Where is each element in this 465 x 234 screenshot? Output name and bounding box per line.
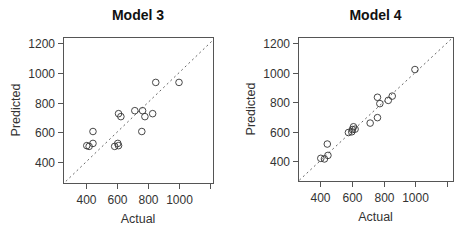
x-tick-label: 800 <box>138 193 158 207</box>
y-tick-label: 600 <box>270 126 290 140</box>
data-point <box>374 94 381 101</box>
data-point <box>367 120 374 127</box>
data-point <box>132 107 139 114</box>
data-point <box>412 66 419 73</box>
data-point <box>149 110 156 117</box>
x-tick-label: 1000 <box>402 191 429 205</box>
data-point <box>90 128 97 135</box>
data-point <box>374 114 381 121</box>
x-tick-label: 600 <box>107 193 127 207</box>
y-axis-label: Predicted <box>9 84 23 137</box>
x-tick-label: 600 <box>342 191 362 205</box>
data-point <box>324 141 331 148</box>
x-axis-label: Actual <box>121 212 156 226</box>
x-axis-label: Actual <box>358 210 393 224</box>
data-point <box>152 79 159 86</box>
chart-canvas: Model 3400600800100040060080010001200Act… <box>0 0 465 234</box>
data-point <box>142 113 149 120</box>
data-point <box>115 142 122 149</box>
y-tick-label: 600 <box>35 126 55 140</box>
x-tick-label: 800 <box>374 191 394 205</box>
data-point <box>176 79 183 86</box>
y-tick-label: 1000 <box>263 67 290 81</box>
x-tick-label: 400 <box>76 193 96 207</box>
y-tick-label: 1200 <box>28 37 55 51</box>
y-tick-label: 800 <box>270 96 290 110</box>
reference-line <box>66 37 216 181</box>
y-tick-label: 1200 <box>263 37 290 51</box>
y-tick-label: 400 <box>270 155 290 169</box>
chart-title: Model 3 <box>112 7 164 23</box>
data-point <box>377 100 384 107</box>
panel-model-3: Model 3400600800100040060080010001200Act… <box>9 7 216 226</box>
y-tick-label: 1000 <box>28 67 55 81</box>
x-tick-label: 400 <box>310 191 330 205</box>
y-tick-label: 400 <box>35 156 55 170</box>
data-point <box>139 128 146 135</box>
panel-model-4: Model 4400600800100040060080010001200Act… <box>244 7 454 224</box>
chart-title: Model 4 <box>349 7 401 23</box>
reference-line <box>299 37 453 180</box>
y-axis-label: Predicted <box>244 83 258 136</box>
y-tick-label: 800 <box>35 97 55 111</box>
x-tick-label: 1000 <box>166 193 193 207</box>
